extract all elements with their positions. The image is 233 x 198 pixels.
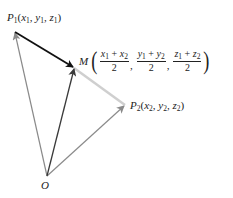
- label-p1: P1(x1, y1, z1): [7, 12, 61, 25]
- label-origin-o: O: [41, 180, 49, 191]
- vector-o-m: [47, 69, 74, 176]
- vector-o-p1: [15, 33, 47, 176]
- fraction-y: y1 + y2 2: [137, 49, 166, 74]
- vector-p1-m: [15, 32, 73, 67]
- fraction-x: x1 + x2 2: [100, 49, 129, 74]
- label-midpoint-m: M ( x1 + x2 2 , y1 + y2 2 , z1 + z2 2 ): [79, 48, 211, 74]
- vector-diagram: [0, 0, 233, 198]
- fraction-z: z1 + z2 2: [173, 49, 201, 74]
- vector-o-p2: [47, 106, 124, 176]
- label-p2: P2(x2, y2, z2): [130, 100, 184, 113]
